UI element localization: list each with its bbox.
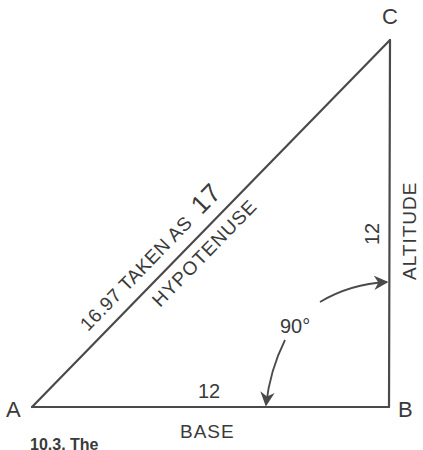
right-angle-label: 90°	[280, 315, 310, 337]
altitude-line	[389, 40, 390, 407]
figure-caption: 10.3. The	[30, 436, 98, 450]
vertex-label-b: B	[398, 397, 413, 422]
angle-arc-lower	[266, 340, 285, 405]
vertex-label-a: A	[6, 397, 21, 422]
altitude-name-label: ALTITUDE	[399, 182, 420, 280]
right-triangle-diagram: A B C 12 BASE 12 ALTITUDE 16.97 TAKEN AS…	[0, 0, 423, 450]
altitude-length-label: 12	[361, 223, 383, 245]
vertex-label-c: C	[382, 4, 398, 29]
hypotenuse-line	[32, 40, 390, 407]
angle-arc-upper	[320, 282, 387, 302]
base-length-label: 12	[198, 380, 220, 402]
base-name-label: BASE	[180, 421, 235, 442]
